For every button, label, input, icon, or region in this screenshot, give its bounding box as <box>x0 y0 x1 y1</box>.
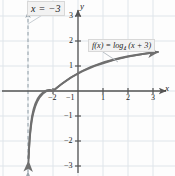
asymptote-label: x = −3 <box>27 1 65 16</box>
x-tick-label-1: 1 <box>101 93 105 102</box>
x-tick-label-3: 3 <box>151 93 155 102</box>
coordinate-plane <box>0 0 175 176</box>
y-tick-label-2: 2 <box>69 36 73 45</box>
x-tick-label-2: 2 <box>126 93 130 102</box>
x-tick-label-neg1: −1 <box>66 93 75 102</box>
graph-figure: x = −3 f(x) = log₄ (x + 3) x y −2 −1 1 2… <box>0 0 175 176</box>
x-tick-label-neg2: −2 <box>48 93 57 102</box>
x-axis-label: x <box>165 83 169 93</box>
function-curve <box>29 52 159 162</box>
y-tick-label-neg3: −3 <box>64 161 73 170</box>
y-tick-label-neg2: −2 <box>64 136 73 145</box>
y-tick-label-1: 1 <box>69 61 73 70</box>
y-axis-label: y <box>80 1 84 11</box>
y-tick-label-neg1: −1 <box>64 111 73 120</box>
function-curve-main <box>29 52 157 158</box>
function-equation-label: f(x) = log₄ (x + 3) <box>88 39 155 52</box>
y-tick-label-3: 3 <box>69 11 73 20</box>
grid-lines <box>0 0 175 176</box>
